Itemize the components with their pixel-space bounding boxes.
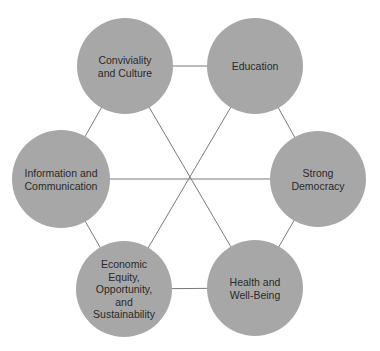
hexagon-network-diagram: Conviviality and Culture Education Stron… — [0, 0, 380, 351]
node-label-information: Information and Communication — [25, 167, 98, 192]
node-label-health: Health and Well-Being — [230, 276, 281, 301]
node-label-strong-democracy: Strong Democracy — [291, 167, 344, 192]
node-label-education: Education — [232, 60, 279, 73]
node-label-conviviality: Conviviality and Culture — [98, 54, 152, 79]
node-label-economic: Economic Equity, Opportunity, and Sustai… — [93, 258, 155, 321]
